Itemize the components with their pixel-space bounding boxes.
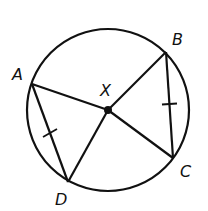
tick-mark-bc: [162, 104, 177, 105]
circle-diagram: A B C D X: [0, 0, 208, 211]
label-a: A: [11, 65, 23, 84]
label-d: D: [55, 190, 67, 209]
radius-cx: [108, 110, 173, 158]
label-b: B: [172, 30, 183, 49]
radius-bx: [108, 52, 166, 110]
diagram-canvas: A B C D X: [0, 0, 208, 211]
radius-dx: [68, 110, 108, 182]
label-x: X: [99, 81, 112, 100]
center-point-x: [104, 106, 112, 114]
radius-ax: [32, 84, 108, 110]
label-c: C: [180, 162, 192, 181]
